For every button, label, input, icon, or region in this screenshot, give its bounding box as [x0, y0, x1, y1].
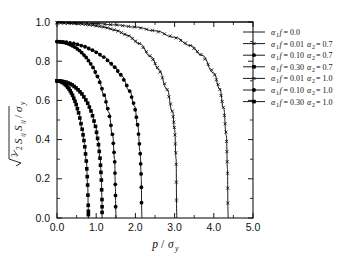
marker-circle	[113, 182, 117, 186]
y-tick-label: 0.6	[35, 94, 50, 106]
legend-alpha2-sub: 2	[312, 102, 315, 108]
marker-circle	[68, 41, 72, 45]
marker-square	[84, 98, 88, 102]
marker-square	[252, 100, 256, 104]
marker-circle	[108, 114, 112, 118]
legend-entry[interactable]: α1f= 0.01α2= 1.0	[243, 74, 333, 84]
legend-entry[interactable]: α1f= 0.0	[243, 28, 300, 38]
marker-circle	[113, 171, 117, 175]
legend-alpha2-sub: 2	[312, 44, 315, 50]
marker-square	[84, 159, 88, 163]
marker-circle	[102, 93, 106, 97]
marker-circle	[139, 185, 143, 189]
marker-circle	[140, 201, 144, 205]
marker-square	[79, 122, 83, 126]
x-tick-label: 5.0	[246, 221, 261, 233]
legend-entry[interactable]: α1f= 0.10α2= 1.0	[243, 86, 333, 96]
y-tick-label: 0.0	[35, 212, 50, 224]
marker-circle	[91, 66, 95, 70]
x-tick-label: 3.0	[167, 221, 182, 233]
marker-square	[78, 116, 82, 120]
marker-circle	[111, 141, 115, 145]
legend-entry[interactable]: α1f= 0.10α2= 0.7	[243, 51, 333, 61]
legend-value: = 0.30	[284, 98, 305, 107]
marker-square	[97, 143, 101, 147]
x-axis-title-sub: y	[174, 244, 179, 253]
marker-circle	[87, 47, 91, 51]
marker-square	[97, 150, 101, 154]
marker-circle	[84, 56, 88, 60]
marker-circle	[61, 40, 65, 44]
legend-alpha2-value: = 0.7	[316, 51, 333, 60]
marker-square	[89, 109, 93, 113]
curve-line	[57, 81, 102, 218]
x-axis-title: p/σy	[151, 238, 179, 253]
marker-square	[100, 205, 104, 209]
marker-circle	[137, 132, 141, 136]
marker-circle	[112, 150, 116, 154]
marker-circle	[106, 107, 110, 111]
marker-square	[92, 119, 96, 123]
marker-square	[100, 198, 104, 202]
marker-square	[83, 145, 87, 149]
x-axis-title-slash: /	[161, 238, 165, 250]
legend-value: = 0.10	[284, 51, 305, 60]
legend-value: = 0.10	[284, 86, 305, 95]
x-axis-title-sigma: σ	[168, 238, 175, 250]
marker-square	[85, 175, 89, 179]
legend-entry[interactable]: α1f= 0.30α2= 1.0	[243, 98, 333, 108]
curve-line	[57, 42, 142, 218]
marker-square	[80, 127, 84, 131]
y-axis-slash: /	[12, 114, 24, 118]
marker-circle	[113, 65, 117, 69]
marker-square	[84, 152, 88, 156]
marker-circle	[136, 123, 140, 127]
y-tick-label: 0.2	[35, 172, 50, 184]
marker-circle	[76, 43, 80, 47]
marker-circle	[132, 101, 136, 105]
marker-square	[99, 171, 103, 175]
legend-alpha2-value: = 1.0	[316, 74, 333, 83]
y-tick-label: 0.8	[35, 55, 50, 67]
marker-square	[87, 213, 91, 217]
marker-square	[73, 99, 77, 103]
marker-circle	[138, 142, 142, 146]
legend-value: = 0.01	[284, 74, 305, 83]
plot-frame	[57, 22, 253, 218]
marker-circle	[111, 132, 115, 136]
marker-square	[86, 203, 90, 207]
chart-svg: 0.01.02.03.04.05.00.00.20.40.60.81.0p/σy…	[0, 0, 355, 263]
y-axis-title: 32SijSij/σy	[9, 101, 27, 166]
curve-line	[57, 81, 88, 218]
marker-circle	[83, 45, 87, 49]
marker-circle	[130, 95, 134, 99]
legend-alpha2-value: = 0.7	[316, 63, 333, 72]
marker-square	[81, 133, 85, 137]
marker-square	[100, 211, 104, 215]
legend-alpha2-sub: 2	[312, 67, 315, 73]
marker-circle	[109, 62, 113, 66]
marker-circle	[94, 50, 98, 54]
marker-circle	[133, 108, 137, 112]
marker-circle	[104, 100, 108, 104]
chart-figure: 0.01.02.03.04.05.00.00.20.40.60.81.0p/σy…	[0, 0, 355, 263]
marker-circle	[122, 78, 126, 82]
legend-alpha2-sub: 2	[312, 90, 315, 96]
y-axis-S2-sub: ij	[19, 120, 27, 124]
y-axis-sigma-sub: y	[18, 101, 27, 106]
legend-alpha2-value: = 1.0	[316, 98, 333, 107]
marker-square	[88, 105, 92, 109]
legend-entry[interactable]: α1f= 0.30α2= 0.7	[243, 63, 333, 73]
legend-alpha2-sub: 2	[312, 55, 315, 61]
legend-entry[interactable]: α1f= 0.01α2= 0.7	[243, 40, 333, 50]
series-1	[56, 21, 178, 218]
marker-square	[86, 183, 90, 187]
marker-square	[86, 101, 90, 105]
marker-circle	[114, 205, 118, 209]
legend-alpha2-value: = 1.0	[316, 86, 333, 95]
marker-circle	[116, 69, 120, 73]
marker-circle	[98, 80, 102, 84]
marker-circle	[102, 55, 106, 59]
x-axis-title-text: p	[151, 238, 158, 251]
marker-circle	[91, 48, 95, 52]
